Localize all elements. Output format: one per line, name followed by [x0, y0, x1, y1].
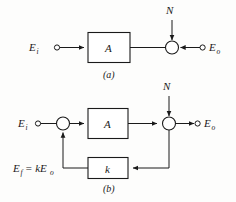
- feedback-signal-label-sub-b: f: [21, 168, 24, 177]
- block-diagram-svg: E i A N E o (a): [0, 0, 236, 202]
- input-label-a: E: [28, 41, 36, 53]
- panel-b: E i A k N E o E f = kE o (b): [12, 80, 216, 195]
- output-label-sub-b: o: [212, 123, 216, 132]
- feedback-signal-label-b: E: [12, 162, 20, 174]
- input-terminal-a[interactable]: [54, 45, 59, 50]
- feedback-signal-equation-sub-b: o: [50, 168, 54, 177]
- output-label-sub-a: o: [217, 47, 221, 56]
- summing-junction-2-b[interactable]: [163, 117, 176, 130]
- amplifier-label-b: A: [103, 118, 111, 130]
- output-label-a: E: [208, 41, 216, 53]
- summing-junction-a[interactable]: [166, 41, 179, 54]
- input-terminal-b[interactable]: [35, 121, 40, 126]
- feedback-signal-equation-b: = kE: [25, 162, 47, 174]
- summing-junction-1-b[interactable]: [57, 117, 70, 130]
- caption-b: (b): [103, 183, 115, 195]
- amplifier-label-a: A: [104, 42, 112, 54]
- input-label-sub-b: i: [26, 123, 28, 132]
- input-label-sub-a: i: [37, 47, 39, 56]
- output-terminal-a[interactable]: [200, 45, 205, 50]
- panel-a: E i A N E o (a): [28, 4, 221, 81]
- caption-a: (a): [103, 69, 115, 81]
- output-terminal-b[interactable]: [195, 121, 200, 126]
- input-label-b: E: [17, 117, 25, 129]
- output-label-b: E: [203, 117, 211, 129]
- noise-label-a: N: [165, 4, 174, 16]
- figure-root: E i A N E o (a): [0, 0, 236, 202]
- noise-label-b: N: [162, 80, 171, 92]
